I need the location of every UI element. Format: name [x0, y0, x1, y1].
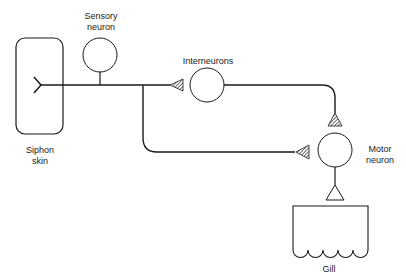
siphon-skin-label: Siphon skin [18, 145, 62, 167]
interneuron-axon [224, 85, 335, 113]
interneuron-soma [190, 68, 224, 102]
motor-neuron-label: Motor neuron [358, 144, 402, 166]
synapse-interneuron-to-motor-icon [328, 113, 342, 126]
reflex-circuit-diagram [0, 0, 406, 277]
interneurons-label: Interneurons [176, 56, 240, 67]
synapse-to-interneuron-icon [170, 79, 183, 91]
neuromuscular-junction-icon [326, 185, 344, 200]
gill-shape [293, 206, 368, 258]
sensory-neuron-label: Sensory neuron [78, 11, 124, 33]
synapse-sensory-to-motor-icon [296, 145, 309, 159]
gill-label: Gill [314, 264, 344, 275]
motor-neuron-soma [318, 133, 352, 167]
sensory-receptor-icon [34, 77, 41, 93]
sensory-neuron-soma [83, 38, 117, 72]
